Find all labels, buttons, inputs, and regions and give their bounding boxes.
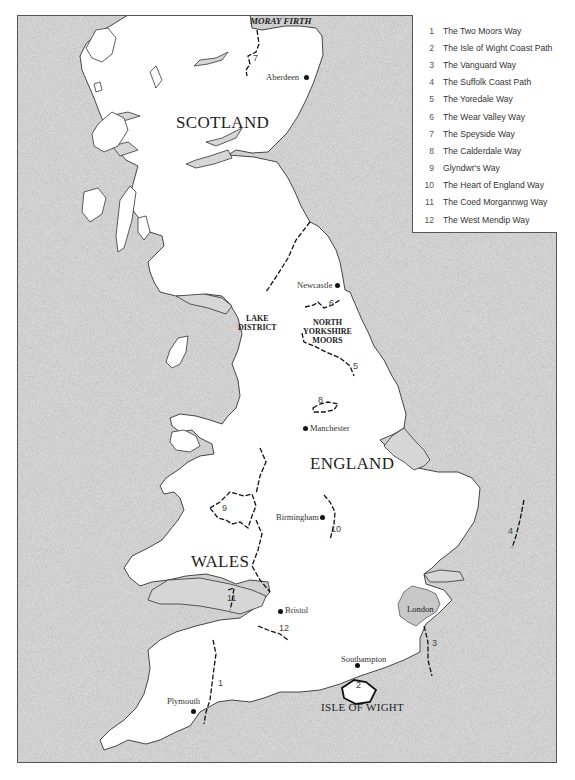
legend-number: 4 (413, 77, 443, 87)
legend-number: 3 (413, 60, 443, 70)
legend-row: 12The West Mendip Way (413, 211, 557, 228)
legend-number: 2 (413, 43, 443, 53)
legend-number: 7 (413, 129, 443, 139)
legend-number: 12 (413, 215, 443, 225)
route-number-1: 1 (218, 678, 223, 688)
legend-row: 4The Suffolk Coast Path (413, 74, 557, 91)
legend-row: 9Glyndwr's Way (413, 160, 557, 177)
route-number-5: 5 (353, 361, 358, 371)
label-england: ENGLAND (310, 454, 394, 474)
legend: 1The Two Moors Way 2The Isle of Wight Co… (412, 15, 557, 233)
legend-row: 5The Yoredale Way (413, 91, 557, 108)
route-number-3: 3 (432, 638, 437, 648)
city-dot-bristol (278, 609, 283, 614)
label-newcastle: Newcastle (297, 280, 332, 290)
label-moray-firth: MORAY FIRTH (250, 16, 311, 26)
label-north-yorkshire-moors: NORTH YORKSHIRE MOORS (303, 318, 352, 345)
route-number-10: 10 (331, 524, 341, 534)
route-number-4: 4 (508, 526, 513, 536)
label-wales: WALES (191, 552, 249, 572)
label-nym-line2: YORKSHIRE (303, 327, 352, 336)
legend-number: 5 (413, 94, 443, 104)
legend-number: 10 (413, 180, 443, 190)
label-birmingham: Birmingham (276, 512, 319, 522)
legend-row: 1The Two Moors Way (413, 22, 557, 39)
label-southampton: Southampton (341, 654, 386, 664)
label-manchester: Manchester (310, 423, 350, 433)
label-lake-district-line1: LAKE (238, 314, 277, 323)
legend-number: 6 (413, 112, 443, 122)
label-bristol: Bristol (285, 605, 308, 615)
legend-row: 11The Coed Morgannwg Way (413, 194, 557, 211)
legend-row: 10The Heart of England Way (413, 177, 557, 194)
legend-number: 1 (413, 26, 443, 36)
legend-label: The Isle of Wight Coast Path (443, 43, 552, 53)
label-lake-district-line2: DISTRICT (238, 323, 277, 332)
legend-label: Glyndwr's Way (443, 163, 500, 173)
city-dot-plymouth (191, 709, 196, 714)
label-nym-line3: MOORS (303, 336, 352, 345)
label-plymouth: Plymouth (167, 696, 200, 706)
city-dot-southampton (355, 663, 360, 668)
legend-row: 3The Vanguard Way (413, 56, 557, 73)
route-number-6: 6 (329, 298, 334, 308)
route-number-9: 9 (222, 503, 227, 513)
route-number-12: 12 (279, 623, 289, 633)
legend-label: The Wear Valley Way (443, 112, 525, 122)
legend-label: The Yoredale Way (443, 94, 513, 104)
legend-number: 8 (413, 146, 443, 156)
legend-label: The Speyside Way (443, 129, 515, 139)
city-dot-newcastle (335, 283, 340, 288)
route-number-11: 11 (227, 593, 236, 603)
legend-row: 6The Wear Valley Way (413, 108, 557, 125)
route-number-8: 8 (318, 395, 323, 405)
label-london: London (407, 604, 433, 614)
label-aberdeen: Aberdeen (266, 72, 299, 82)
legend-row: 7The Speyside Way (413, 125, 557, 142)
legend-number: 11 (413, 197, 443, 207)
legend-label: The West Mendip Way (443, 215, 529, 225)
legend-row: 8The Calderdale Way (413, 142, 557, 159)
legend-number: 9 (413, 163, 443, 173)
route-number-2: 2 (356, 680, 361, 690)
label-scotland: SCOTLAND (176, 113, 269, 133)
label-lake-district: LAKE DISTRICT (238, 314, 277, 332)
city-dot-manchester (303, 426, 308, 431)
legend-label: The Coed Morgannwg Way (443, 197, 547, 207)
legend-label: The Suffolk Coast Path (443, 77, 531, 87)
label-isle-of-wight: ISLE OF WIGHT (321, 701, 404, 713)
legend-label: The Two Moors Way (443, 26, 521, 36)
city-dot-birmingham (320, 515, 325, 520)
legend-row: 2The Isle of Wight Coast Path (413, 39, 557, 56)
legend-label: The Vanguard Way (443, 60, 516, 70)
route-number-7: 7 (253, 53, 258, 63)
legend-label: The Calderdale Way (443, 146, 521, 156)
label-nym-line1: NORTH (303, 318, 352, 327)
city-dot-aberdeen (304, 75, 309, 80)
legend-label: The Heart of England Way (443, 180, 544, 190)
